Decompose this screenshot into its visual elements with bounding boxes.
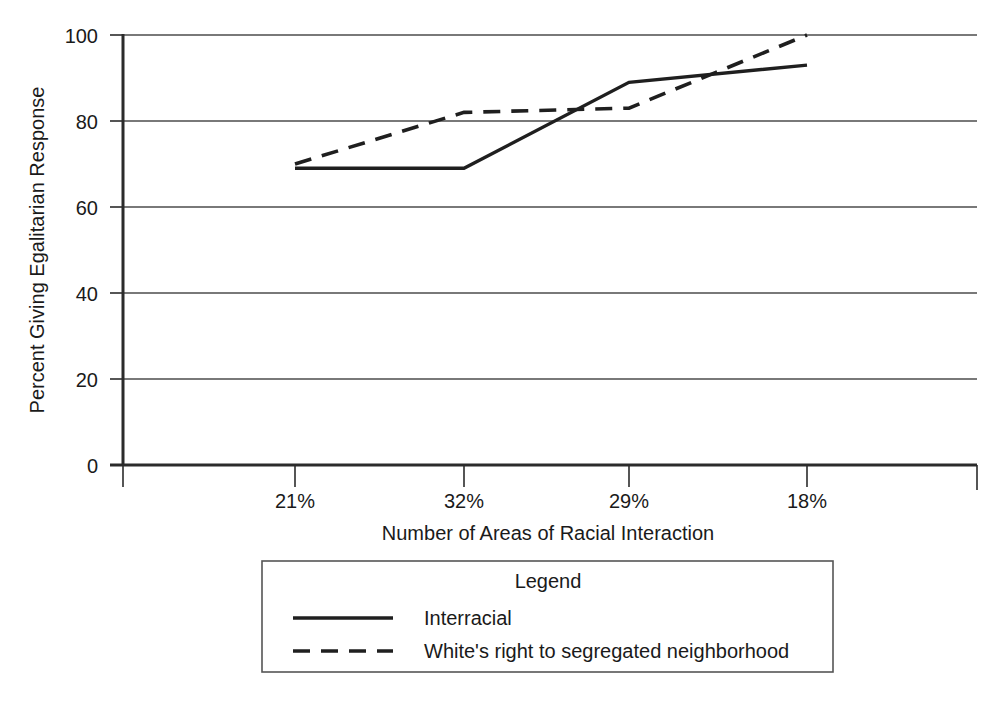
- x-tick-labels: 21% 32% 29% 18%: [275, 490, 827, 512]
- y-tick-label-100: 100: [65, 25, 98, 47]
- legend-label-interracial: Interracial: [424, 607, 512, 629]
- y-axis-title: Percent Giving Egalitarian Response: [26, 87, 48, 414]
- y-tick-label-60: 60: [76, 197, 98, 219]
- x-tick-label-32: 32%: [444, 490, 484, 512]
- x-tick-label-21: 21%: [275, 490, 315, 512]
- data-series: [295, 35, 807, 168]
- x-tick-label-18: 18%: [787, 490, 827, 512]
- series-white-right-line: [295, 35, 807, 164]
- axes-lines: [110, 34, 977, 490]
- y-tick-label-0: 0: [87, 455, 98, 477]
- y-tick-label-20: 20: [76, 369, 98, 391]
- y-tick-labels: 100 80 60 40 20 0: [65, 25, 98, 477]
- legend-title: Legend: [515, 570, 582, 592]
- x-tick-marks: [123, 465, 807, 487]
- chart-canvas: 100 80 60 40 20 0 21% 32% 29% 18% Number…: [0, 0, 999, 702]
- x-axis-title: Number of Areas of Racial Interaction: [382, 522, 714, 544]
- x-tick-label-29: 29%: [609, 490, 649, 512]
- series-interracial-line: [295, 65, 807, 168]
- y-tick-label-40: 40: [76, 283, 98, 305]
- line-chart-figure: 100 80 60 40 20 0 21% 32% 29% 18% Number…: [0, 0, 999, 702]
- gridlines: [123, 35, 977, 379]
- legend-label-white-right: White's right to segregated neighborhood: [424, 640, 789, 662]
- legend: Legend Interracial White's right to segr…: [262, 561, 833, 672]
- y-tick-label-80: 80: [76, 111, 98, 133]
- y-tick-marks: [110, 35, 123, 465]
